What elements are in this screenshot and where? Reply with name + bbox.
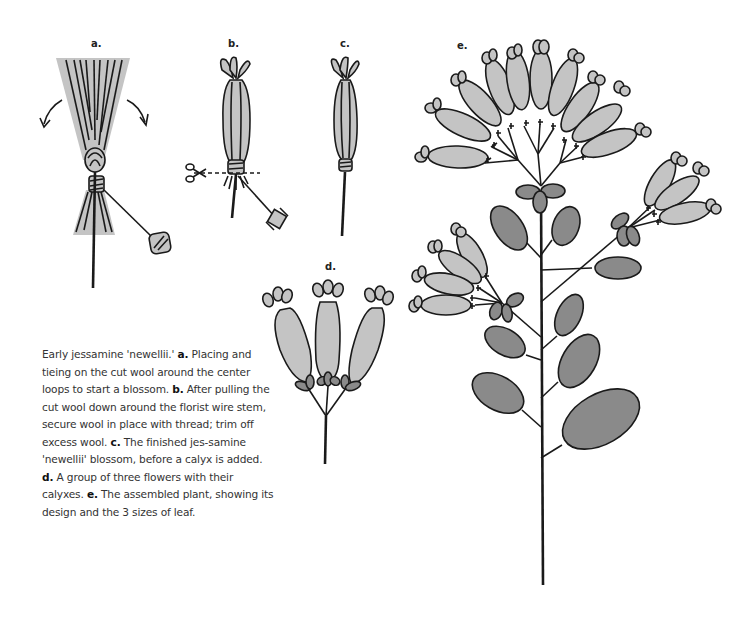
figure-a-illustration bbox=[40, 58, 172, 288]
figure-e-illustration bbox=[409, 40, 721, 585]
figure-b-illustration bbox=[186, 57, 288, 230]
figure-d-illustration bbox=[261, 280, 395, 464]
figure-c-illustration bbox=[331, 57, 359, 236]
caption-b-label: b. bbox=[172, 383, 183, 395]
caption-c-label: c. bbox=[111, 436, 121, 448]
caption-e-label: e. bbox=[87, 488, 98, 500]
illustration-canvas bbox=[0, 0, 748, 622]
caption-a-label: a. bbox=[178, 348, 189, 360]
caption-intro: Early jessamine 'newellii.' bbox=[42, 348, 178, 360]
caption-d-label: d. bbox=[42, 471, 53, 483]
figure-caption: Early jessamine 'newellii.' a. Placing a… bbox=[42, 346, 274, 521]
